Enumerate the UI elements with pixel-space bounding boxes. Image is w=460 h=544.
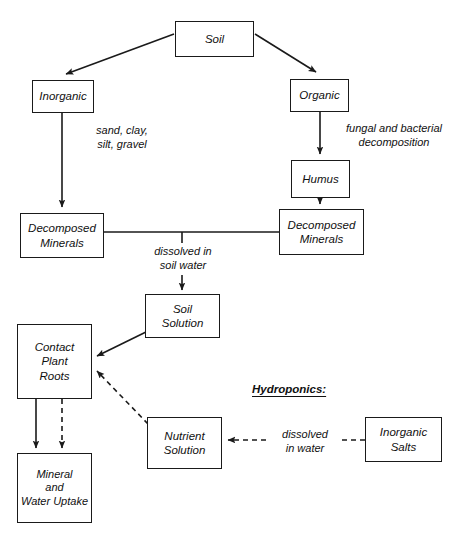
node-contact-plant-roots[interactable]: Contact Plant Roots: [17, 324, 92, 399]
edge-label-dissolved-in-soil-water: dissolved in soil water: [143, 245, 223, 272]
node-inorganic[interactable]: Inorganic: [32, 80, 94, 113]
node-mineral-and-water-uptake[interactable]: Mineral and Water Uptake: [17, 453, 92, 523]
node-humus[interactable]: Humus: [291, 160, 350, 198]
node-inorganic-salts[interactable]: Inorganic Salts: [365, 417, 442, 462]
node-nutrient-solution[interactable]: Nutrient Solution: [147, 417, 222, 469]
node-soil-solution[interactable]: Soil Solution: [145, 294, 220, 338]
edge-label-fungal-decomposition: fungal and bacterial decomposition: [330, 122, 458, 149]
edge-nutrient-solution-to-roots: [97, 371, 148, 424]
edge-soil-to-inorganic: [66, 34, 174, 74]
node-organic[interactable]: Organic: [290, 79, 349, 112]
edge-label-dissolved-in-water: dissolved in water: [270, 428, 340, 455]
edge-soil-solution-to-roots: [97, 331, 148, 356]
node-decomposed-minerals-left[interactable]: Decomposed Minerals: [20, 213, 104, 258]
node-decomposed-minerals-right[interactable]: Decomposed Minerals: [279, 209, 364, 255]
edge-label-sand-clay-silt-gravel: sand, clay, silt, gravel: [74, 124, 170, 151]
node-soil[interactable]: Soil: [175, 21, 254, 57]
section-label-hydroponics: Hydroponics:: [252, 383, 326, 395]
edge-soil-to-organic: [255, 34, 316, 72]
soil-hydroponics-diagram: Soil Inorganic Organic Humus Decomposed …: [0, 0, 460, 544]
